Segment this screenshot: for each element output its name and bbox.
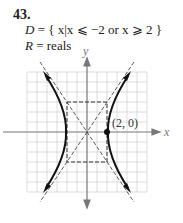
vertex-label: (2, 0) bbox=[112, 116, 138, 130]
y-axis-label: y bbox=[82, 44, 89, 58]
axes bbox=[3, 58, 160, 208]
hyperbola-graph: x y (2, 0) bbox=[0, 0, 183, 223]
x-axis-label: x bbox=[163, 125, 170, 139]
vertex-point bbox=[104, 129, 110, 135]
